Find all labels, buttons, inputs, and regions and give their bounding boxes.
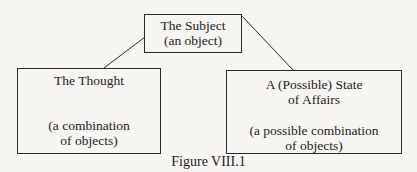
node-state-title-line2: of Affairs: [227, 92, 401, 107]
edge-subject-state: [241, 15, 293, 70]
node-subject: The Subject (an object): [144, 14, 242, 53]
node-subject-title: The Subject: [145, 18, 241, 33]
node-thought: The Thought (a combination of objects): [17, 68, 161, 154]
node-thought-subtitle-line2: of objects): [18, 133, 160, 148]
figure-caption: Figure VIII.1: [0, 154, 417, 170]
node-state-subtitle-line2: of objects): [227, 138, 401, 153]
node-subject-subtitle: (an object): [145, 33, 241, 48]
node-state-title-line1: A (Possible) State: [227, 77, 401, 92]
edge-subject-thought: [104, 37, 145, 68]
node-state-subtitle-line1: (a possible combination: [227, 123, 401, 138]
node-thought-subtitle-line1: (a combination: [18, 118, 160, 133]
node-thought-title: The Thought: [18, 73, 160, 88]
node-state-of-affairs: A (Possible) State of Affairs (a possibl…: [226, 70, 402, 154]
